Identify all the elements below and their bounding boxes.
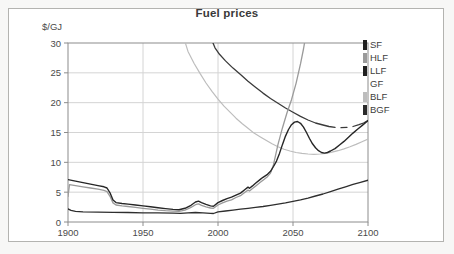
- y-tick-label: 10: [50, 157, 61, 168]
- legend-label: BLF: [370, 92, 387, 102]
- y-tick-label: 15: [50, 127, 61, 138]
- y-tick-label: 25: [50, 67, 61, 78]
- legend-item-BLF: BLF: [363, 90, 390, 103]
- gridlines: [68, 43, 368, 222]
- legend-item-BGF: BGF: [363, 103, 390, 116]
- legend-item-SF: SF: [363, 38, 390, 51]
- legend-swatch-icon: [363, 40, 367, 50]
- legend-label: LLF: [370, 66, 386, 76]
- series-HLF: [68, 31, 307, 211]
- legend-item-GF: GF: [363, 77, 390, 90]
- legend-label: HLF: [370, 53, 388, 63]
- legend-label: GF: [370, 79, 383, 89]
- x-tick-label: 2100: [357, 227, 378, 238]
- legend-swatch-icon: [363, 92, 367, 102]
- screenshot-page: Fuel prices $/GJ 05101520253019001950200…: [0, 0, 454, 254]
- x-tick-label: 2000: [207, 227, 228, 238]
- series-BLF: [184, 37, 369, 154]
- legend-swatch-icon: [363, 66, 367, 76]
- y-tick-label: 30: [50, 38, 61, 49]
- legend-label: BGF: [370, 105, 390, 115]
- legend-swatch-icon: [363, 53, 367, 63]
- x-tick-label: 2050: [282, 227, 303, 238]
- legend-item-LLF: LLF: [363, 64, 390, 77]
- legend-label: SF: [370, 40, 382, 50]
- chart-legend: SFHLFLLFGFBLFBGF: [363, 38, 390, 116]
- y-tick-label: 0: [56, 217, 61, 228]
- legend-item-HLF: HLF: [363, 51, 390, 64]
- legend-swatch-icon: [363, 79, 367, 89]
- series-BGF: [211, 37, 369, 128]
- x-tick-label: 1900: [57, 227, 78, 238]
- y-tick-label: 5: [56, 187, 61, 198]
- y-tick-label: 20: [50, 97, 61, 108]
- legend-swatch-icon: [363, 105, 367, 115]
- x-tick-label: 1950: [132, 227, 153, 238]
